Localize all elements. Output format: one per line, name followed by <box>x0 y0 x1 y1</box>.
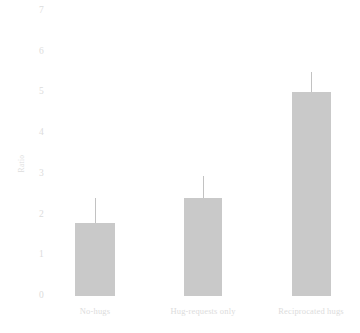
plot-area: Ratio 7 6 5 4 3 2 1 0 No-hugs Hug-reques… <box>0 0 360 333</box>
x-tick-label-no-hugs: No-hugs <box>80 306 110 316</box>
bar-chart: Ratio 7 6 5 4 3 2 1 0 No-hugs Hug-reques… <box>0 0 360 333</box>
error-bar-2 <box>311 72 312 92</box>
bar-1 <box>184 198 222 296</box>
bar-0 <box>75 223 115 296</box>
y-tick-label-4: 4 <box>0 128 44 138</box>
bar-2 <box>292 92 331 296</box>
y-tick-label-0: 0 <box>0 291 44 301</box>
y-tick-label-3: 3 <box>0 169 44 179</box>
error-bar-0 <box>95 198 96 222</box>
x-tick-label-hug-requests-only: Hug-requests only <box>170 306 235 316</box>
y-tick-label-6: 6 <box>0 47 44 57</box>
error-bar-1 <box>203 176 204 198</box>
y-tick-label-7: 7 <box>0 6 44 16</box>
y-axis-title: Ratio <box>17 134 26 194</box>
y-tick-label-5: 5 <box>0 88 44 98</box>
x-tick-label-reciprocated-hugs: Reciprocated hugs <box>278 306 344 316</box>
y-tick-label-1: 1 <box>0 251 44 261</box>
y-tick-label-2: 2 <box>0 210 44 220</box>
